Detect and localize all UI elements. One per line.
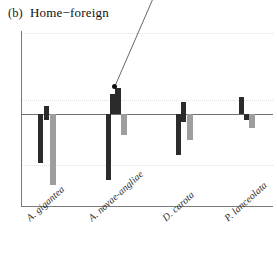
bar-dark-d-carota xyxy=(181,114,186,122)
bar-gray-d-carota xyxy=(187,114,193,140)
bar-dark-a-gigantea xyxy=(44,114,49,120)
plot-area xyxy=(21,31,273,207)
bar-gray-a-novae-angliae xyxy=(121,114,127,135)
bar-dark-d-carota xyxy=(181,102,186,114)
bar-dark-p-lanceolata xyxy=(239,97,244,114)
panel-tag: (b) xyxy=(8,6,23,21)
panel-title-row: (b) Home−foreign xyxy=(8,5,109,21)
figure-panel-b: (b) Home−foreign A. giganteaA. novae-ang… xyxy=(0,0,277,279)
bar-series-container xyxy=(21,31,273,207)
bar-dark-a-novae-angliae xyxy=(106,114,111,180)
bar-dark-a-gigantea xyxy=(44,106,49,114)
bar-gray-p-lanceolata xyxy=(249,114,255,128)
annotation-dot xyxy=(112,84,117,89)
bar-gray-a-gigantea xyxy=(50,114,56,185)
page-title: Home−foreign xyxy=(30,5,109,21)
bar-dark-a-gigantea xyxy=(38,114,43,163)
bar-dark-a-novae-angliae xyxy=(115,88,121,114)
